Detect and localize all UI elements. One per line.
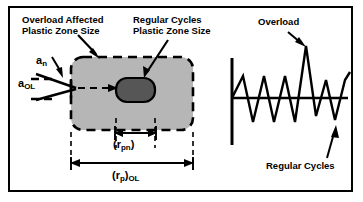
crack-lines (31, 74, 76, 100)
regular-zone-label-line2: Plastic Zone Size (133, 26, 211, 37)
crack-length-aol-label: aOL (18, 77, 35, 91)
crack-length-aol-subscript: OL (24, 82, 35, 91)
dimension-rp-ol-label: (rp)OL (112, 169, 139, 183)
regular-plastic-zone-shape (116, 78, 155, 102)
regular-cycles-annotation-arrow (327, 125, 339, 158)
overload-zone-label-line2: Plastic Zone Size (22, 26, 103, 37)
overload-marker-label: Overload (258, 17, 299, 28)
overload-zone-leader-arrow (78, 35, 100, 59)
regular-zone-label: Regular Cycles Plastic Zone Size (133, 15, 211, 37)
crack-length-an-subscript: n (42, 59, 47, 68)
dimension-rpn-close: ) (131, 138, 135, 150)
dimension-rpn-subscript: pn (121, 143, 131, 152)
overload-zone-label: Overload Affected Plastic Zone Size (22, 15, 103, 37)
crack-length-an-label: an (36, 54, 47, 68)
load-spectrum-waveform (232, 46, 350, 122)
dimension-rpn-open: (r (113, 138, 121, 150)
dimension-rp-ol-subscript2: OL (128, 174, 139, 183)
figure-root: Overload Affected Plastic Zone Size Regu… (0, 0, 363, 202)
an-pointer-arrow (52, 57, 63, 78)
overload-annotation-arrow (288, 32, 306, 47)
dimension-rpn-label: (rpn) (113, 138, 134, 152)
dimension-rp-ol-open: (r (112, 169, 120, 181)
regular-cycles-marker-label: Regular Cycles (266, 161, 335, 172)
